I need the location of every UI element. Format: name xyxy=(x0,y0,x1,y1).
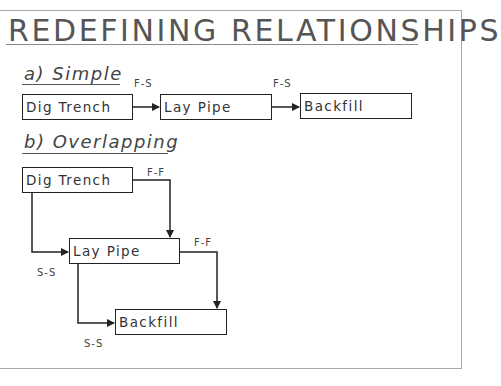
arrow-ff-1 xyxy=(133,180,170,237)
arrow-ss-2 xyxy=(78,264,114,323)
arrow-ff-2 xyxy=(180,252,217,308)
arrow-ss-1 xyxy=(32,193,68,252)
